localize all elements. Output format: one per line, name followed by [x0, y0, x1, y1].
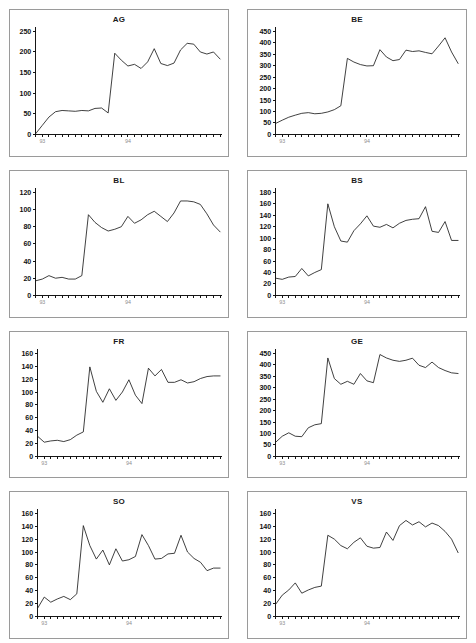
x-tick-label: 93	[39, 138, 45, 144]
y-tick-label: 60	[23, 240, 31, 247]
y-tick-label: 50	[23, 110, 31, 117]
y-tick-label: 120	[21, 536, 33, 543]
y-tick-label: 140	[21, 362, 33, 369]
y-tick-label: 400	[259, 361, 271, 368]
x-tick-label: 94	[125, 138, 131, 144]
y-tick-label: 80	[263, 562, 271, 569]
chart-panel-fr: FR0204060801001201401609394	[9, 331, 229, 479]
chart-panel-bs: BS0204060801001201401601809394	[247, 170, 467, 318]
data-series-line	[276, 521, 458, 605]
y-tick-label: 20	[23, 275, 31, 282]
y-tick-label: 100	[21, 388, 33, 395]
y-tick-label: 100	[259, 234, 271, 241]
y-tick-label: 100	[259, 108, 271, 115]
y-tick-label: 80	[23, 223, 31, 230]
y-tick-label: 200	[19, 49, 31, 56]
y-tick-label: 0	[29, 452, 33, 459]
y-tick-label: 80	[263, 246, 271, 253]
plot-area-ge: 0501001502002503003504004509394	[248, 332, 466, 478]
y-tick-label: 400	[259, 39, 271, 46]
y-tick-label: 80	[25, 562, 33, 569]
panel-cell-be: BE0501001502002503003504004509394	[238, 0, 476, 161]
y-tick-label: 80	[25, 401, 33, 408]
x-tick-label: 93	[279, 620, 285, 626]
y-tick-label: 180	[259, 189, 271, 196]
y-tick-label: 160	[21, 510, 33, 517]
y-tick-label: 350	[259, 372, 271, 379]
y-tick-label: 60	[25, 414, 33, 421]
x-tick-label: 94	[125, 299, 131, 305]
x-tick-label: 93	[41, 620, 47, 626]
y-tick-label: 0	[267, 292, 271, 299]
chart-panel-ag: AG0501001502002509394	[9, 9, 229, 157]
y-tick-label: 160	[259, 510, 271, 517]
y-tick-label: 40	[263, 269, 271, 276]
data-series-line	[276, 204, 458, 280]
panel-cell-so: SO0204060801001201401609394	[0, 482, 238, 643]
plot-area-bs: 0204060801001201401601809394	[248, 171, 466, 317]
chart-panel-bl: BL0204060801001209394	[9, 170, 229, 318]
y-tick-label: 0	[267, 452, 271, 459]
chart-grid: AG0501001502002509394BE05010015020025030…	[0, 0, 476, 643]
panel-cell-bs: BS0204060801001201401601809394	[238, 161, 476, 322]
y-tick-label: 250	[259, 395, 271, 402]
x-tick-label: 93	[279, 138, 285, 144]
y-tick-label: 0	[29, 613, 33, 620]
y-tick-label: 120	[259, 223, 271, 230]
y-tick-label: 450	[259, 28, 271, 35]
y-tick-label: 100	[21, 549, 33, 556]
y-tick-label: 250	[259, 74, 271, 81]
panel-cell-ge: GE0501001502002503003504004509394	[238, 322, 476, 483]
y-tick-label: 140	[259, 212, 271, 219]
data-series-line	[276, 38, 458, 124]
x-tick-label: 94	[364, 620, 370, 626]
y-tick-label: 50	[263, 120, 271, 127]
y-tick-label: 0	[267, 613, 271, 620]
y-tick-label: 0	[27, 292, 31, 299]
y-tick-label: 40	[25, 427, 33, 434]
y-tick-label: 120	[19, 189, 31, 196]
y-tick-label: 160	[259, 200, 271, 207]
y-tick-label: 40	[263, 587, 271, 594]
y-tick-label: 150	[19, 69, 31, 76]
plot-area-vs: 0204060801001201401609394	[248, 492, 466, 638]
y-tick-label: 40	[23, 257, 31, 264]
y-tick-label: 200	[259, 85, 271, 92]
panel-cell-ag: AG0501001502002509394	[0, 0, 238, 161]
y-tick-label: 100	[19, 206, 31, 213]
y-tick-label: 160	[21, 349, 33, 356]
y-tick-label: 0	[27, 131, 31, 138]
y-tick-label: 20	[25, 440, 33, 447]
y-tick-label: 300	[259, 62, 271, 69]
data-series-line	[36, 43, 220, 133]
y-tick-label: 100	[259, 549, 271, 556]
y-tick-label: 300	[259, 384, 271, 391]
y-tick-label: 100	[19, 90, 31, 97]
y-tick-label: 140	[21, 523, 33, 530]
y-tick-label: 60	[263, 257, 271, 264]
y-tick-label: 0	[267, 131, 271, 138]
y-tick-label: 200	[259, 407, 271, 414]
data-series-line	[38, 526, 220, 608]
y-tick-label: 40	[25, 587, 33, 594]
y-tick-label: 20	[263, 600, 271, 607]
panel-cell-bl: BL0204060801001209394	[0, 161, 238, 322]
x-tick-label: 94	[126, 620, 132, 626]
x-tick-label: 93	[41, 460, 47, 466]
x-tick-label: 93	[279, 460, 285, 466]
data-series-line	[276, 354, 458, 442]
y-tick-label: 450	[259, 349, 271, 356]
chart-panel-be: BE0501001502002503003504004509394	[247, 9, 467, 157]
data-series-line	[38, 366, 220, 441]
plot-area-fr: 0204060801001201401609394	[10, 332, 228, 478]
x-tick-label: 94	[364, 299, 370, 305]
data-series-line	[36, 201, 220, 281]
y-tick-label: 140	[259, 523, 271, 530]
plot-area-bl: 0204060801001209394	[10, 171, 228, 317]
chart-panel-ge: GE0501001502002503003504004509394	[247, 331, 467, 479]
chart-panel-vs: VS0204060801001201401609394	[247, 491, 467, 639]
y-tick-label: 60	[263, 575, 271, 582]
x-tick-label: 94	[364, 138, 370, 144]
y-tick-label: 100	[259, 430, 271, 437]
plot-area-so: 0204060801001201401609394	[10, 492, 228, 638]
